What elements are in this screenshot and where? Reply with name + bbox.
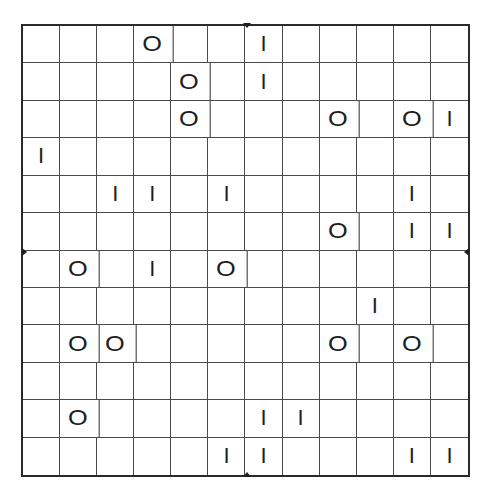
grid-cell-r1-c8[interactable]: [320, 63, 357, 100]
grid-cell-r3-c7[interactable]: [283, 138, 320, 175]
grid-cell-r4-c7[interactable]: [283, 176, 320, 213]
grid-cell-r8-c3[interactable]: [134, 325, 171, 362]
grid-cell-r0-c1[interactable]: [60, 26, 97, 63]
grid-cell-r10-c9[interactable]: [357, 400, 394, 437]
grid-cell-r1-c0[interactable]: [23, 63, 60, 100]
grid-cell-r9-c2[interactable]: [97, 363, 134, 400]
grid-cell-r0-c6[interactable]: I: [245, 26, 282, 63]
grid-cell-r2-c3[interactable]: [134, 101, 171, 138]
grid-cell-r11-c3[interactable]: [134, 438, 171, 475]
grid-cell-r4-c2[interactable]: I: [97, 176, 134, 213]
grid-cell-r8-c4[interactable]: [171, 325, 208, 362]
grid-cell-r0-c11[interactable]: [431, 26, 468, 63]
grid-cell-r1-c2[interactable]: [97, 63, 134, 100]
grid-cell-r2-c10[interactable]: O: [391, 101, 434, 138]
grid-cell-r8-c0[interactable]: [23, 325, 60, 362]
grid-cell-r10-c1[interactable]: O: [57, 400, 100, 437]
grid-cell-r8-c11[interactable]: [431, 325, 468, 362]
grid-cell-r11-c6[interactable]: I: [245, 438, 282, 475]
grid-cell-r11-c0[interactable]: [23, 438, 60, 475]
grid-cell-r2-c0[interactable]: [23, 101, 60, 138]
grid-cell-r10-c7[interactable]: I: [283, 400, 320, 437]
grid-cell-r9-c6[interactable]: [245, 363, 282, 400]
grid-cell-r2-c5[interactable]: [208, 101, 245, 138]
grid-cell-r3-c1[interactable]: [60, 138, 97, 175]
grid-cell-r4-c4[interactable]: [171, 176, 208, 213]
grid-cell-r8-c7[interactable]: [283, 325, 320, 362]
grid-cell-r10-c3[interactable]: [134, 400, 171, 437]
grid-cell-r8-c6[interactable]: [245, 325, 282, 362]
grid-cell-r7-c8[interactable]: [320, 288, 357, 325]
grid-cell-r9-c7[interactable]: [283, 363, 320, 400]
grid-cell-r5-c10[interactable]: I: [394, 213, 431, 250]
grid-cell-r7-c0[interactable]: [23, 288, 60, 325]
grid-cell-r9-c4[interactable]: [171, 363, 208, 400]
grid-cell-r10-c10[interactable]: [394, 400, 431, 437]
grid-cell-r0-c3[interactable]: O: [131, 26, 174, 63]
grid-cell-r8-c8[interactable]: O: [317, 325, 360, 362]
grid-cell-r7-c5[interactable]: [208, 288, 245, 325]
grid-cell-r6-c9[interactable]: [357, 251, 394, 288]
grid-cell-r11-c7[interactable]: [283, 438, 320, 475]
grid-cell-r9-c3[interactable]: [134, 363, 171, 400]
grid-cell-r6-c0[interactable]: [23, 251, 60, 288]
grid-cell-r11-c5[interactable]: I: [208, 438, 245, 475]
grid-cell-r4-c3[interactable]: I: [134, 176, 171, 213]
grid-cell-r2-c11[interactable]: I: [431, 101, 468, 138]
grid-cell-r8-c9[interactable]: [357, 325, 394, 362]
grid-cell-r10-c0[interactable]: [23, 400, 60, 437]
grid-cell-r3-c6[interactable]: [245, 138, 282, 175]
grid-cell-r4-c5[interactable]: I: [208, 176, 245, 213]
grid-cell-r11-c8[interactable]: [320, 438, 357, 475]
grid-cell-r6-c11[interactable]: [431, 251, 468, 288]
grid-cell-r4-c0[interactable]: [23, 176, 60, 213]
grid-cell-r8-c10[interactable]: O: [391, 325, 434, 362]
grid-cell-r9-c9[interactable]: [357, 363, 394, 400]
grid-cell-r1-c9[interactable]: [357, 63, 394, 100]
grid-cell-r6-c2[interactable]: [97, 251, 134, 288]
grid-cell-r10-c4[interactable]: [171, 400, 208, 437]
grid-cell-r9-c1[interactable]: [60, 363, 97, 400]
grid-cell-r0-c7[interactable]: [283, 26, 320, 63]
grid-cell-r1-c7[interactable]: [283, 63, 320, 100]
grid-cell-r9-c10[interactable]: [394, 363, 431, 400]
grid-cell-r11-c4[interactable]: [171, 438, 208, 475]
grid-cell-r10-c8[interactable]: [320, 400, 357, 437]
grid-cell-r1-c11[interactable]: [431, 63, 468, 100]
grid-cell-r5-c4[interactable]: [171, 213, 208, 250]
grid-cell-r0-c4[interactable]: [171, 26, 208, 63]
grid-cell-r6-c7[interactable]: [283, 251, 320, 288]
grid-cell-r11-c2[interactable]: [97, 438, 134, 475]
grid-cell-r0-c9[interactable]: [357, 26, 394, 63]
grid-cell-r2-c4[interactable]: O: [169, 101, 212, 138]
grid-cell-r0-c10[interactable]: [394, 26, 431, 63]
grid-cell-r4-c1[interactable]: [60, 176, 97, 213]
grid-cell-r6-c8[interactable]: [320, 251, 357, 288]
grid-cell-r6-c4[interactable]: [171, 251, 208, 288]
grid-cell-r3-c10[interactable]: [394, 138, 431, 175]
grid-cell-r7-c10[interactable]: [394, 288, 431, 325]
grid-cell-r5-c1[interactable]: [60, 213, 97, 250]
grid-cell-r9-c11[interactable]: [431, 363, 468, 400]
grid-cell-r1-c4[interactable]: O: [169, 63, 212, 100]
grid-cell-r1-c10[interactable]: [394, 63, 431, 100]
grid-cell-r9-c8[interactable]: [320, 363, 357, 400]
grid-cell-r5-c8[interactable]: O: [317, 213, 360, 250]
grid-cell-r11-c1[interactable]: [60, 438, 97, 475]
grid-cell-r10-c11[interactable]: [431, 400, 468, 437]
grid-cell-r11-c9[interactable]: [357, 438, 394, 475]
grid-cell-r8-c5[interactable]: [208, 325, 245, 362]
grid-cell-r6-c1[interactable]: O: [57, 251, 100, 288]
grid-cell-r9-c5[interactable]: [208, 363, 245, 400]
grid-cell-r6-c3[interactable]: I: [134, 251, 171, 288]
grid-cell-r5-c6[interactable]: [245, 213, 282, 250]
grid-cell-r7-c2[interactable]: [97, 288, 134, 325]
grid-cell-r7-c9[interactable]: I: [357, 288, 394, 325]
grid-cell-r3-c9[interactable]: [357, 138, 394, 175]
grid-cell-r4-c10[interactable]: I: [394, 176, 431, 213]
grid-cell-r2-c1[interactable]: [60, 101, 97, 138]
grid-cell-r4-c8[interactable]: [320, 176, 357, 213]
grid-cell-r5-c3[interactable]: [134, 213, 171, 250]
grid-cell-r9-c0[interactable]: [23, 363, 60, 400]
grid-cell-r3-c8[interactable]: [320, 138, 357, 175]
